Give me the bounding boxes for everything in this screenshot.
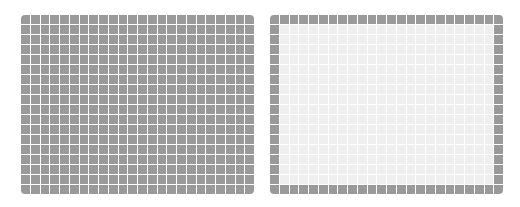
- grid-cell: [358, 15, 367, 24]
- grid-cell: [148, 185, 157, 194]
- grid-cell: [319, 105, 328, 114]
- grid-cell: [407, 85, 416, 94]
- grid-cell: [158, 25, 167, 34]
- grid-cell: [348, 175, 357, 184]
- grid-cell: [119, 105, 128, 114]
- grid-cell: [119, 125, 128, 134]
- grid-cell: [177, 185, 186, 194]
- grid-cell: [475, 185, 484, 194]
- grid-cell: [167, 45, 176, 54]
- grid-cell: [348, 125, 357, 134]
- grid-cell: [426, 55, 435, 64]
- grid-cell: [280, 145, 289, 154]
- grid-cell: [290, 115, 299, 124]
- grid-cell: [245, 75, 254, 84]
- grid-cell: [338, 155, 347, 164]
- grid-cell: [290, 15, 299, 24]
- grid-cell: [245, 15, 254, 24]
- grid-cell: [206, 55, 215, 64]
- grid-cell: [99, 115, 108, 124]
- grid-cell: [446, 95, 455, 104]
- grid-cell: [407, 115, 416, 124]
- grid-cell: [329, 75, 338, 84]
- grid-cell: [41, 175, 50, 184]
- grid-cell: [397, 25, 406, 34]
- grid-cell: [485, 75, 494, 84]
- grid-cell: [31, 155, 40, 164]
- grid-cell: [348, 165, 357, 174]
- grid-cell: [41, 145, 50, 154]
- grid-cell: [60, 155, 69, 164]
- grid-cell: [138, 15, 147, 24]
- grid-cell: [89, 25, 98, 34]
- grid-cell: [377, 15, 386, 24]
- grid-cell: [319, 35, 328, 44]
- grid-cell: [455, 115, 464, 124]
- grid-cell: [348, 185, 357, 194]
- grid-cell: [397, 175, 406, 184]
- grid-cell: [31, 145, 40, 154]
- grid-cell: [41, 55, 50, 64]
- grid-cell: [397, 95, 406, 104]
- grid-cell: [416, 155, 425, 164]
- grid-cell: [177, 35, 186, 44]
- grid-cell: [138, 125, 147, 134]
- grid-cell: [216, 105, 225, 114]
- grid-cell: [299, 165, 308, 174]
- grid-cell: [31, 95, 40, 104]
- grid-cell: [245, 65, 254, 74]
- grid-cell: [348, 85, 357, 94]
- grid-cell: [270, 135, 279, 144]
- grid-cell: [167, 175, 176, 184]
- grid-cell: [455, 145, 464, 154]
- grid-cell: [387, 65, 396, 74]
- grid-cell: [426, 135, 435, 144]
- grid-cell: [148, 65, 157, 74]
- grid-cell: [80, 165, 89, 174]
- grid-cell: [358, 105, 367, 114]
- grid-cell: [348, 115, 357, 124]
- grid-cell: [31, 25, 40, 34]
- grid-cell: [397, 125, 406, 134]
- grid-cell: [187, 105, 196, 114]
- grid-cell: [148, 25, 157, 34]
- grid-cell: [446, 145, 455, 154]
- grid-cell: [426, 25, 435, 34]
- grid-cell: [245, 145, 254, 154]
- grid-cell: [177, 85, 186, 94]
- grid-cell: [407, 75, 416, 84]
- grid-cell: [475, 165, 484, 174]
- grid-cell: [290, 75, 299, 84]
- grid-cell: [329, 85, 338, 94]
- grid-cell: [167, 65, 176, 74]
- grid-cell: [41, 15, 50, 24]
- grid-cell: [80, 175, 89, 184]
- grid-cell: [245, 115, 254, 124]
- grid-cell: [270, 185, 279, 194]
- grid-cell: [319, 125, 328, 134]
- grid-cell: [494, 95, 503, 104]
- grid-cell: [299, 75, 308, 84]
- grid-cell: [216, 95, 225, 104]
- grid-cell: [187, 145, 196, 154]
- grid-cell: [119, 95, 128, 104]
- grid-cell: [41, 115, 50, 124]
- grid-cell: [377, 155, 386, 164]
- grid-cell: [70, 145, 79, 154]
- grid-cell: [299, 135, 308, 144]
- grid-cell: [426, 75, 435, 84]
- grid-cell: [138, 55, 147, 64]
- grid-cell: [309, 145, 318, 154]
- grid-cell: [387, 185, 396, 194]
- grid-cell: [377, 135, 386, 144]
- grid-cell: [290, 185, 299, 194]
- grid-cell: [236, 35, 245, 44]
- grid-cell: [299, 145, 308, 154]
- grid-cell: [177, 115, 186, 124]
- grid-cell: [377, 75, 386, 84]
- grid-cell: [494, 45, 503, 54]
- grid-cell: [128, 185, 137, 194]
- grid-cell: [206, 85, 215, 94]
- grid-cell: [41, 125, 50, 134]
- grid-cell: [167, 75, 176, 84]
